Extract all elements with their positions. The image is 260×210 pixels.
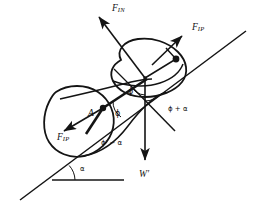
upper-right-linkage	[145, 48, 176, 78]
diagram-canvas	[0, 0, 260, 210]
node-central-vertex	[143, 76, 147, 80]
force-ip-lower-vector-arrow	[64, 108, 103, 131]
angle-alpha-arc	[69, 166, 75, 181]
label-force-ip-upper: FIP	[192, 23, 204, 33]
label-point-a: A	[88, 109, 94, 119]
label-force-ip-lower: FIP	[57, 133, 69, 143]
label-angle-phi-plus-alpha: ϕ + α	[168, 106, 188, 113]
force-in-vector-arrow	[99, 17, 145, 78]
node-upper-right	[173, 56, 180, 63]
oblique-reference-line-upper	[114, 69, 128, 83]
label-force-in: FIN	[112, 4, 125, 14]
label-weight: W′	[139, 170, 149, 180]
incline-plane-line	[20, 31, 246, 200]
lower-body-fold-curve	[84, 92, 166, 156]
label-angle-phi-prime-minus-alpha: ϕ′ − α	[101, 140, 122, 147]
upper-body-fold-curve	[113, 64, 183, 86]
node-point-a	[100, 105, 106, 111]
force-diagram-figure: FIN FIP FIP W′ A ϕ ϕ ϕ + α ϕ′ − α α	[0, 0, 260, 210]
label-angle-phi-lower: ϕ	[115, 110, 120, 118]
label-angle-phi-upper: ϕ	[128, 88, 133, 96]
label-angle-alpha: α	[80, 166, 85, 173]
